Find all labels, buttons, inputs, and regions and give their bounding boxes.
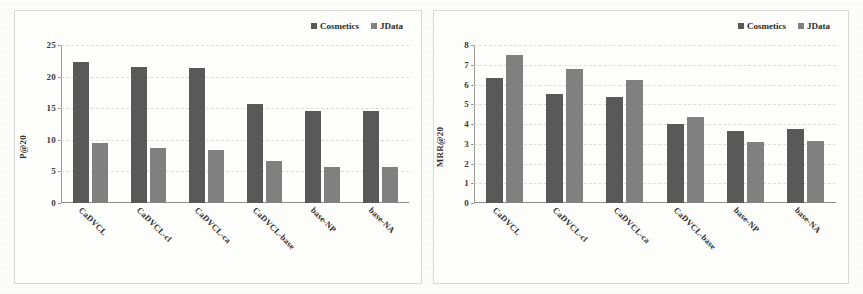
bar-jdata bbox=[266, 161, 282, 203]
y-axis-tick-label: 1 bbox=[464, 178, 469, 188]
legend-item-jdata: JData bbox=[371, 21, 403, 31]
bar-cosmetics bbox=[546, 94, 563, 203]
x-axis-label-slot: CaDVCL-cl bbox=[119, 203, 177, 265]
x-axis-label-slot: base-NP bbox=[715, 203, 775, 265]
bar-cosmetics bbox=[787, 129, 804, 203]
bar-cosmetics bbox=[131, 67, 147, 204]
y-axis-tick-label: 15 bbox=[47, 103, 56, 113]
bar-cosmetics bbox=[189, 68, 205, 203]
bar-cosmetics bbox=[606, 97, 623, 203]
legend-swatch-jdata-icon bbox=[798, 23, 804, 29]
y-axis-tick-label: 5 bbox=[51, 166, 56, 176]
y-axis-tick-label: 0 bbox=[51, 198, 56, 208]
legend-label-cosmetics: Cosmetics bbox=[320, 21, 359, 31]
y-axis-tick-label: 20 bbox=[47, 72, 56, 82]
bar-cosmetics bbox=[73, 62, 89, 203]
legend-swatch-cosmetics-icon bbox=[738, 23, 744, 29]
x-axis-label-slot: CaDVCL-ca bbox=[177, 203, 235, 265]
legend-label-jdata: JData bbox=[380, 21, 403, 31]
legend-right: Cosmetics JData bbox=[738, 21, 830, 31]
bar-groups-left bbox=[61, 45, 409, 203]
bar-cosmetics bbox=[667, 124, 684, 203]
bar-jdata bbox=[566, 69, 583, 203]
x-axis-tick-label: CaDVCL-cl bbox=[135, 205, 174, 244]
x-axis-label-slot: CaDVCL-base bbox=[235, 203, 293, 265]
y-axis-tick-label: 10 bbox=[47, 135, 56, 145]
legend-swatch-jdata-icon bbox=[371, 23, 377, 29]
bar-cosmetics bbox=[247, 104, 263, 203]
bar-group bbox=[351, 45, 409, 203]
bar-group bbox=[474, 45, 534, 203]
y-axis-tick-label: 0 bbox=[464, 198, 469, 208]
x-axis-label-slot: base-NA bbox=[351, 203, 409, 265]
bar-group bbox=[655, 45, 715, 203]
plot-area-left: 0510152025 bbox=[61, 45, 409, 203]
x-axis-tick-label: CaDVCL-ca bbox=[612, 205, 652, 245]
x-axis-tick-label: CaDVCL-ca bbox=[193, 205, 233, 245]
x-axis-tick-label: base-NP bbox=[732, 205, 761, 234]
figure-page: Cosmetics JData P@20 0510152025 CaDVCLCa… bbox=[0, 0, 863, 294]
y-axis-label-left: P@20 bbox=[18, 135, 28, 159]
y-axis-tick-label: 2 bbox=[464, 159, 469, 169]
x-axis-label-slot: CaDVCL-ca bbox=[595, 203, 655, 265]
plot-area-right: 012345678 bbox=[474, 45, 836, 203]
bar-group bbox=[776, 45, 836, 203]
bar-group bbox=[61, 45, 119, 203]
bar-group bbox=[534, 45, 594, 203]
legend-left: Cosmetics JData bbox=[311, 21, 403, 31]
bar-group bbox=[715, 45, 775, 203]
x-axis-label-slot: CaDVCL-base bbox=[655, 203, 715, 265]
bar-jdata bbox=[92, 143, 108, 203]
bar-groups-right bbox=[474, 45, 836, 203]
legend-label-jdata: JData bbox=[807, 21, 830, 31]
x-axis-tick-label: CaDVCL bbox=[77, 205, 109, 237]
legend-swatch-cosmetics-icon bbox=[311, 23, 317, 29]
bar-cosmetics bbox=[305, 111, 321, 203]
x-axis-tick-label: base-NA bbox=[793, 205, 823, 235]
legend-item-jdata: JData bbox=[798, 21, 830, 31]
bar-jdata bbox=[747, 142, 764, 203]
y-axis-tick-label: 7 bbox=[464, 60, 469, 70]
bar-jdata bbox=[807, 141, 824, 203]
bar-cosmetics bbox=[486, 78, 503, 203]
y-axis-tick-label: 4 bbox=[464, 119, 469, 129]
bar-jdata bbox=[506, 55, 523, 203]
bar-group bbox=[177, 45, 235, 203]
x-axis-tick-label: base-NA bbox=[367, 205, 397, 235]
y-axis-tick-label: 25 bbox=[47, 40, 56, 50]
chart-panel-precision: Cosmetics JData P@20 0510152025 CaDVCLCa… bbox=[14, 10, 422, 284]
bar-group bbox=[595, 45, 655, 203]
bar-jdata bbox=[150, 148, 166, 203]
x-axis-label-slot: base-NA bbox=[776, 203, 836, 265]
bar-jdata bbox=[687, 117, 704, 203]
bar-cosmetics bbox=[727, 131, 744, 203]
x-axis-label-slot: base-NP bbox=[293, 203, 351, 265]
x-axis-tick-label: CaDVCL-cl bbox=[551, 205, 590, 244]
legend-item-cosmetics: Cosmetics bbox=[738, 21, 786, 31]
x-axis-label-slot: CaDVCL bbox=[474, 203, 534, 265]
bar-cosmetics bbox=[363, 111, 379, 203]
legend-item-cosmetics: Cosmetics bbox=[311, 21, 359, 31]
x-axis-label-slot: CaDVCL bbox=[61, 203, 119, 265]
x-axis-tick-label: base-NP bbox=[309, 205, 338, 234]
bar-group bbox=[119, 45, 177, 203]
x-axis-tick-label: CaDVCL-base bbox=[672, 205, 718, 251]
chart-panel-mrr: Cosmetics JData MRR@20 012345678 CaDVCLC… bbox=[433, 10, 849, 284]
bar-group bbox=[293, 45, 351, 203]
y-axis-label-right: MRR@20 bbox=[435, 127, 445, 168]
x-axis-tick-label: CaDVCL bbox=[491, 205, 523, 237]
y-axis-tick-label: 3 bbox=[464, 139, 469, 149]
bar-jdata bbox=[626, 80, 643, 203]
x-axis-label-slot: CaDVCL-cl bbox=[534, 203, 594, 265]
bar-jdata bbox=[324, 167, 340, 203]
x-axis-tick-label: CaDVCL-base bbox=[251, 205, 297, 251]
bar-jdata bbox=[382, 167, 398, 203]
bar-group bbox=[235, 45, 293, 203]
x-axis-labels-right: CaDVCLCaDVCL-clCaDVCL-caCaDVCL-basebase-… bbox=[474, 203, 836, 265]
legend-label-cosmetics: Cosmetics bbox=[747, 21, 786, 31]
y-axis-tick-label: 6 bbox=[464, 80, 469, 90]
y-axis-tick-label: 8 bbox=[464, 40, 469, 50]
x-axis-labels-left: CaDVCLCaDVCL-clCaDVCL-caCaDVCL-basebase-… bbox=[61, 203, 409, 265]
bar-jdata bbox=[208, 150, 224, 203]
y-axis-tick-label: 5 bbox=[464, 99, 469, 109]
